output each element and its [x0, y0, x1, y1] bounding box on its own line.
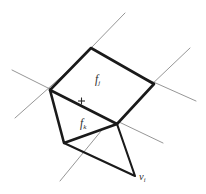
- face-label-upper-subscript: j: [98, 79, 100, 87]
- face-label-lower: fk: [80, 118, 87, 131]
- vertex-label-subscript: i: [144, 176, 146, 183]
- face-label-lower-subscript: k: [83, 123, 86, 131]
- face-label-upper: fj: [95, 74, 100, 87]
- mesh-face-diagram: fj fk vi: [0, 0, 206, 194]
- vertex-label-base: v: [139, 171, 144, 182]
- diagram-canvas: [0, 0, 206, 194]
- vertex-label: vi: [139, 172, 146, 183]
